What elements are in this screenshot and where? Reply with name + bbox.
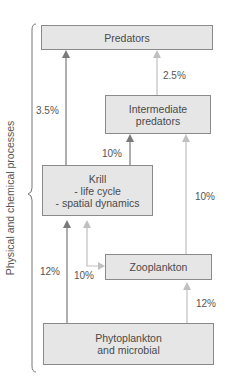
node-predators: Predators — [41, 25, 213, 50]
node-intermediate-line2: predators — [129, 115, 187, 127]
node-phyto-line2: and microbial — [95, 344, 162, 356]
edge-label-krill-intermediate: 10% — [102, 148, 122, 159]
bracket — [28, 24, 36, 372]
node-predators-label: Predators — [104, 32, 150, 44]
node-intermediate-line1: Intermediate — [129, 103, 187, 115]
node-zooplankton: Zooplankton — [105, 254, 212, 280]
edge-label-phyto-krill: 12% — [40, 266, 60, 277]
arrow-krill-zooplankton — [87, 228, 98, 266]
edge-label-phyto-zooplankton: 12% — [196, 298, 216, 309]
node-krill-line1: Krill — [55, 173, 139, 185]
side-label: Physical and chemical processes — [4, 121, 16, 276]
node-krill-line3: - spatial dynamics — [55, 197, 139, 209]
node-intermediate-predators: Intermediate predators — [105, 95, 211, 134]
edge-label-zooplankton-intermediate: 10% — [195, 191, 215, 202]
node-zooplankton-label: Zooplankton — [130, 261, 188, 273]
edge-label-intermediate-predators: 2.5% — [163, 70, 186, 81]
node-krill-line2: - life cycle — [55, 185, 139, 197]
edge-label-krill-predators: 3.5% — [36, 105, 59, 116]
node-phytoplankton: Phytoplankton and microbial — [43, 323, 214, 365]
edge-label-krill-zooplankton: 10% — [74, 270, 94, 281]
node-phyto-line1: Phytoplankton — [95, 332, 162, 344]
node-krill: Krill - life cycle - spatial dynamics — [42, 165, 153, 216]
